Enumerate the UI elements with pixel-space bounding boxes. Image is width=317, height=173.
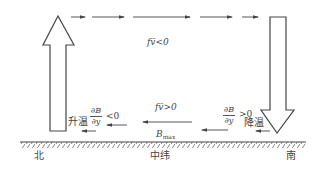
- left-gradient-relation: <0: [106, 112, 119, 121]
- left-gradient-numerator: ∂B: [90, 107, 102, 117]
- left-gradient-fraction: ∂B ∂y: [90, 107, 102, 126]
- right-gradient-fraction: ∂B ∂y: [223, 106, 235, 125]
- right-gradient-numerator: ∂B: [223, 106, 235, 116]
- downward-arrow-icon: [261, 17, 294, 133]
- north-label: 北: [34, 151, 44, 161]
- b-max-subscript: max: [163, 133, 176, 140]
- mid-latitude-label: 中纬: [150, 151, 170, 161]
- warming-label: 升温: [68, 117, 88, 127]
- bottom-flow-arrows: [82, 122, 270, 131]
- top-flow-label: fv̄<0: [147, 38, 169, 47]
- ground-surface: [20, 142, 306, 148]
- left-gradient-denominator: ∂y: [90, 117, 102, 126]
- right-gradient-denominator: ∂y: [223, 116, 235, 125]
- bottom-flow-label: fv̄>0: [155, 103, 177, 112]
- diagram-graphics: [0, 0, 317, 173]
- circulation-diagram: fv̄<0 fv̄>0 Bmax ∂B ∂y <0 升温 ∂B ∂y >0 降温…: [0, 0, 317, 173]
- cooling-label: 降温: [244, 118, 264, 128]
- upward-arrow-icon: [43, 16, 74, 131]
- south-label: 南: [286, 151, 296, 161]
- b-symbol: B: [156, 129, 163, 139]
- b-max-label: Bmax: [156, 130, 175, 140]
